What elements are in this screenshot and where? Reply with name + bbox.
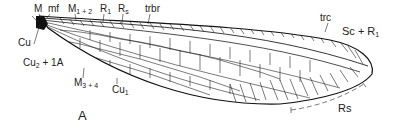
- panel-label: A: [78, 108, 87, 123]
- label-Cu2-1A: Cu2 + 1A: [23, 58, 63, 71]
- label-mf: mf: [48, 4, 59, 14]
- label-trc: trc: [320, 13, 331, 23]
- label-M1-2: M1 + 2: [68, 4, 92, 17]
- label-Rs-top: Rs: [118, 4, 129, 17]
- label-Rs-bottom: Rs: [338, 103, 351, 113]
- label-Sc-R1: Sc + R1: [342, 26, 379, 40]
- label-Cu: Cu: [18, 38, 31, 48]
- label-trbr: trbr: [145, 4, 160, 14]
- label-R1: R1: [100, 4, 111, 17]
- label-M3-4: M3 + 4: [74, 78, 98, 91]
- label-Cu1: Cu1: [112, 85, 129, 98]
- label-M: M: [34, 4, 42, 14]
